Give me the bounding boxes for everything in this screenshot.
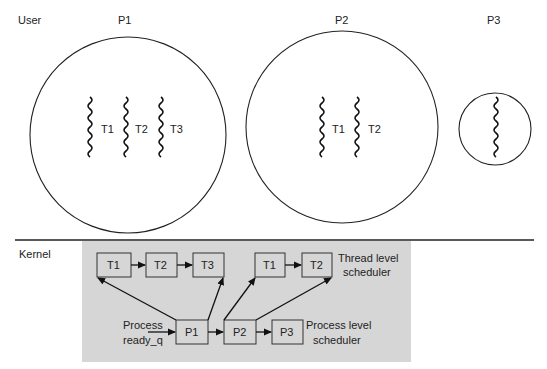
diagram-canvas: User P1 P2 P3 T1 T2 T3 T1 T2 Kernel T1 T… <box>0 0 547 369</box>
queue-node-label: T1 <box>263 259 276 271</box>
process-scheduler-label: scheduler <box>313 334 361 346</box>
thread-label: T3 <box>170 123 183 135</box>
process-p1-label: P1 <box>118 14 131 26</box>
thread-wave-icon <box>320 97 324 157</box>
thread-scheduler-label: Thread level <box>338 252 399 264</box>
process-scheduler-label: Process level <box>306 319 371 331</box>
thread-wave-icon <box>124 97 128 157</box>
process-p2-circle: T1 T2 <box>246 31 438 223</box>
process-p3-circle <box>459 93 531 165</box>
queue-node-label: T3 <box>201 259 214 271</box>
queue-node-label: P3 <box>280 326 293 338</box>
queue-node-label: P2 <box>233 326 246 338</box>
kernel-region-label: Kernel <box>19 248 51 260</box>
ready-queue-label: ready_q <box>123 334 163 346</box>
thread-wave-icon <box>355 97 359 157</box>
thread-wave-icon <box>494 97 498 157</box>
queue-node-label: P1 <box>185 326 198 338</box>
thread-label: T1 <box>332 123 345 135</box>
ready-queue-label: Process <box>123 319 163 331</box>
thread-label: T2 <box>368 123 381 135</box>
process-p2-label: P2 <box>335 14 348 26</box>
queue-node-label: T2 <box>154 259 167 271</box>
queue-node-label: T2 <box>310 259 323 271</box>
user-region-label: User <box>18 14 42 26</box>
thread-scheduler-label: scheduler <box>343 266 391 278</box>
thread-wave-icon <box>88 97 92 157</box>
thread-label: T1 <box>101 123 114 135</box>
process-p1-circle: T1 T2 T3 <box>30 37 226 233</box>
thread-wave-icon <box>159 97 163 157</box>
process-p3-label: P3 <box>487 14 500 26</box>
queue-node-label: T1 <box>107 259 120 271</box>
thread-label: T2 <box>135 123 148 135</box>
